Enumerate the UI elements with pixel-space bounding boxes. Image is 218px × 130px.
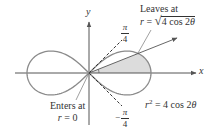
frac-den: 4 (123, 120, 128, 129)
frac-num: π (123, 108, 128, 117)
enters-leader-line (76, 73, 89, 100)
leaves-radicand: 4 cos 2θ (161, 16, 195, 27)
leaves-radicand-text: 4 cos 2 (162, 16, 190, 27)
neg-sign: − (115, 112, 120, 122)
curve-equation: r2 = 4 cos 2θ (145, 97, 196, 110)
enters-line1: Enters at (50, 101, 85, 111)
eq-theta: θ (191, 99, 196, 110)
leaves-annotation: Leaves at r = √4 cos 2θ (140, 4, 195, 27)
eq-rest: = 4 cos 2 (152, 99, 191, 110)
angle-label-pi-over-4: π 4 (121, 23, 129, 44)
leaves-line1: Leaves at (140, 4, 195, 14)
frac-num: π (123, 23, 128, 32)
enters-annotation: Enters at r = 0 (50, 101, 85, 123)
enters-line2: r = 0 (50, 113, 85, 123)
neg-frac: π 4 (121, 108, 129, 129)
leaves-eq: = (144, 16, 155, 27)
leaves-theta: θ (190, 16, 195, 27)
dashed-ray-neg-pi-over-4 (89, 73, 122, 106)
frac-den: 4 (123, 35, 128, 44)
enters-rest: = 0 (62, 112, 78, 123)
y-axis-label: y (86, 7, 90, 17)
leaves-line2: r = √4 cos 2θ (140, 16, 195, 27)
x-axis-label: x (199, 66, 203, 76)
